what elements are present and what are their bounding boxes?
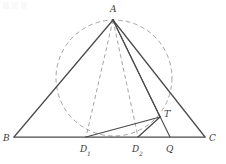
geometry-figure: A B C D1 D2 Q T′ xyxy=(0,0,226,164)
segment-AB xyxy=(14,20,113,137)
label-T-prime: T′ xyxy=(164,110,172,119)
segment-AT xyxy=(113,20,160,117)
segment-AD1 xyxy=(86,20,113,137)
label-D1: D1 xyxy=(80,145,91,156)
label-A: A xyxy=(110,5,117,14)
label-A-text: A xyxy=(110,4,117,14)
figure-canvas xyxy=(0,0,226,164)
label-B: B xyxy=(3,134,10,143)
label-D1-subscript: 1 xyxy=(87,150,91,157)
label-D2: D2 xyxy=(132,145,143,156)
label-D2-subscript: 2 xyxy=(139,150,143,157)
label-C-text: C xyxy=(209,133,216,143)
label-C: C xyxy=(209,134,216,143)
vertex-dot-T xyxy=(159,116,161,118)
label-T-prime-mark: ′ xyxy=(170,109,172,119)
segment-AC xyxy=(113,20,205,137)
label-Q-text: Q xyxy=(166,144,173,154)
label-B-text: B xyxy=(3,133,10,143)
label-Q: Q xyxy=(166,145,173,154)
segment-AD2 xyxy=(113,20,138,137)
vertex-dot-A xyxy=(112,19,114,21)
